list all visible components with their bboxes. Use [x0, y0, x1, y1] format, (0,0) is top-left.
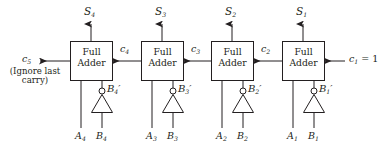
carry-subscript: 5 [27, 58, 31, 65]
a-symbol: A [75, 130, 82, 141]
b-symbol: B [96, 130, 103, 141]
inverter-triangle-1 [304, 95, 325, 113]
carry-in-label: c1 = 1 [349, 54, 378, 65]
full-adder-line1: Full [223, 46, 241, 57]
full-adder-label-2: Full Adder [211, 46, 254, 68]
b-subscript: 1 [315, 135, 319, 142]
b-prime: ′ [118, 83, 120, 94]
full-adder-label-3: Full Adder [141, 46, 184, 68]
note-line2: carry) [22, 75, 48, 85]
sum-subscript: 4 [91, 11, 95, 18]
full-adder-line1: Full [294, 46, 312, 57]
b-prime: ′ [330, 83, 332, 94]
a-symbol: A [287, 130, 294, 141]
full-adder-label-4: Full Adder [70, 46, 113, 68]
b-prime: ′ [189, 83, 191, 94]
b-symbol: B [308, 130, 315, 141]
b-prime: ′ [259, 83, 261, 94]
inverter-bubble-4 [99, 88, 105, 94]
a-symbol: A [146, 130, 153, 141]
full-adder-label-1: Full Adder [282, 46, 325, 68]
a-symbol: A [216, 130, 223, 141]
b-subscript: 3 [174, 135, 178, 142]
b-symbol: B [237, 130, 244, 141]
a-subscript: 4 [82, 135, 86, 142]
sum-label-1: S1 [296, 6, 307, 18]
a-subscript: 3 [153, 135, 157, 142]
full-adder-line1: Full [82, 46, 100, 57]
input-b-label-4: B4 [96, 131, 107, 142]
carry-label-4: c4 [120, 44, 129, 55]
sum-subscript: 2 [232, 11, 236, 18]
inverter-output-label-1: B1′ [319, 84, 333, 95]
full-adder-line2: Adder [289, 57, 317, 68]
inverter-bubble-1 [311, 88, 317, 94]
inverter-bubble-2 [240, 88, 246, 94]
sum-label-4: S4 [84, 6, 95, 18]
carry-subscript: 4 [125, 48, 129, 55]
sum-label-2: S2 [225, 6, 236, 18]
carry-subscript: 3 [196, 48, 200, 55]
input-a-label-1: A1 [287, 131, 298, 142]
sum-label-3: S3 [155, 6, 166, 18]
a-subscript: 1 [294, 135, 298, 142]
full-adder-line2: Adder [77, 57, 105, 68]
carry-subscript: 2 [266, 48, 270, 55]
inverter-triangle-4 [92, 95, 113, 113]
input-b-label-1: B1 [308, 131, 319, 142]
input-b-label-2: B2 [237, 131, 248, 142]
sum-subscript: 3 [162, 11, 166, 18]
a-subscript: 2 [223, 135, 227, 142]
full-adder-line2: Adder [148, 57, 176, 68]
sum-subscript: 1 [303, 11, 307, 18]
inverter-bubble-3 [170, 88, 176, 94]
carry-label-2: c2 [261, 44, 270, 55]
input-b-label-3: B3 [167, 131, 178, 142]
inverter-output-label-2: B2′ [248, 84, 262, 95]
carry-label-3: c3 [191, 44, 200, 55]
full-adder-line1: Full [153, 46, 171, 57]
inverter-triangle-3 [163, 95, 184, 113]
input-a-label-4: A4 [75, 131, 86, 142]
final-carry-label: c5 [22, 54, 31, 65]
inverter-triangle-2 [233, 95, 254, 113]
ignore-carry-note: (Ignore last carry) [2, 67, 68, 84]
input-a-label-2: A2 [216, 131, 227, 142]
carry-in-value: = 1 [358, 53, 378, 64]
b-subscript: 4 [103, 135, 107, 142]
b-subscript: 2 [244, 135, 248, 142]
input-a-label-3: A3 [146, 131, 157, 142]
inverter-output-label-3: B3′ [178, 84, 192, 95]
b-symbol: B [167, 130, 174, 141]
inverter-output-label-4: B4′ [107, 84, 121, 95]
circuit-diagram: Full Adder Full Adder Full Adder Full Ad… [0, 0, 388, 154]
full-adder-line2: Adder [218, 57, 246, 68]
